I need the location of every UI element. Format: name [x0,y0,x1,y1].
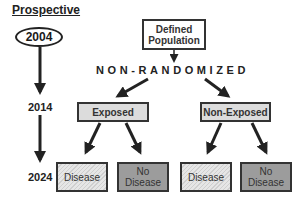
diagram-title: Prospective [12,3,80,17]
outcome-label-line2: Disease [248,177,284,188]
outcome-label: Disease [64,172,100,183]
outcome-label-line1: No [125,166,161,177]
population-label-line2: Population [148,35,200,46]
exposed-disease-box: Disease [56,162,108,192]
mid-year-label: 2014 [28,101,52,113]
non-randomized-label: NON-RANDOMIZED [96,64,249,76]
defined-population-box: Defined Population [142,19,206,50]
non-exposed-group-box: Non-Exposed [200,102,271,122]
non-exposed-no-disease-box: No Disease [240,162,292,192]
end-year-label: 2024 [28,171,52,183]
exposed-no-disease-box: No Disease [117,162,169,192]
start-year-ellipse: 2004 [15,27,63,47]
population-label-line1: Defined [148,24,200,35]
non-exposed-group-label: Non-Exposed [203,107,267,118]
outcome-label-line1: No [248,166,284,177]
start-year-label: 2004 [26,30,53,44]
exposed-group-label: Exposed [92,107,134,118]
outcome-label-line2: Disease [125,177,161,188]
outcome-label: Disease [188,172,224,183]
exposed-group-box: Exposed [77,102,149,122]
non-exposed-disease-box: Disease [180,162,232,192]
